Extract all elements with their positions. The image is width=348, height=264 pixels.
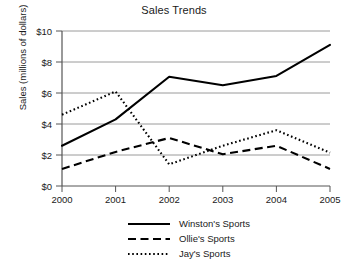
x-tick-label-2005: 2005: [319, 194, 340, 205]
gridlines: [62, 31, 330, 186]
series-line-jays: [62, 91, 330, 164]
legend-item-jays: Jay's Sports: [128, 246, 328, 261]
y-tick-label-10: $10: [36, 26, 52, 37]
legend-label-jays: Jay's Sports: [179, 248, 230, 259]
y-tick-label-6: $6: [41, 88, 52, 99]
legend-sample-dashed-icon: [128, 234, 170, 244]
x-tick-label-2000: 2000: [51, 194, 72, 205]
legend-label-ollies: Ollie's Sports: [179, 233, 235, 244]
x-tick-label-2003: 2003: [212, 194, 233, 205]
series-line-winstons: [62, 45, 330, 146]
chart-legend: Winston's Sports Ollie's Sports Jay's Sp…: [128, 216, 328, 261]
legend-item-winstons: Winston's Sports: [128, 216, 328, 231]
x-tick-label-2004: 2004: [266, 194, 287, 205]
legend-sample-solid-icon: [128, 219, 170, 229]
y-tick-label-4: $4: [41, 119, 52, 130]
series-line-ollies: [62, 138, 330, 169]
x-tick-label-2001: 2001: [105, 194, 126, 205]
y-axis: [56, 31, 62, 186]
legend-sample-dotted-icon: [128, 249, 170, 259]
y-tick-label-0: $0: [41, 181, 52, 192]
y-tick-label-2: $2: [41, 150, 52, 161]
sales-trends-chart: Sales Trends Sales (millions of dollars)…: [0, 0, 348, 264]
x-axis: [62, 186, 330, 192]
y-tick-label-8: $8: [41, 57, 52, 68]
x-tick-label-2002: 2002: [159, 194, 180, 205]
legend-label-winstons: Winston's Sports: [179, 218, 250, 229]
legend-item-ollies: Ollie's Sports: [128, 231, 328, 246]
